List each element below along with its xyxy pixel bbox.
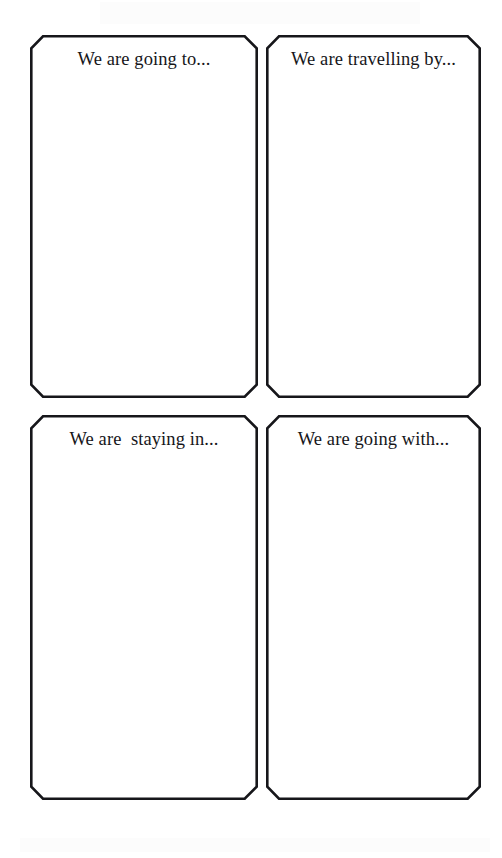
card-staying-in[interactable]: We are staying in... (30, 415, 258, 800)
card-label-staying-in: We are staying in... (30, 427, 258, 451)
card-label-going-to: We are going to... (30, 47, 258, 71)
card-label-travelling-by: We are travelling by... (266, 47, 481, 71)
card-going-with[interactable]: We are going with... (266, 415, 481, 800)
card-border-shape (266, 35, 481, 398)
scan-artifact-top (100, 2, 420, 24)
card-border-shape (30, 415, 258, 800)
card-label-going-with: We are going with... (266, 427, 481, 451)
card-border-shape (266, 415, 481, 800)
scan-artifact-bottom (20, 838, 490, 852)
card-going-to[interactable]: We are going to... (30, 35, 258, 398)
card-travelling-by[interactable]: We are travelling by... (266, 35, 481, 398)
worksheet-page: We are going to... We are travelling by.… (0, 0, 502, 858)
card-border-shape (30, 35, 258, 398)
